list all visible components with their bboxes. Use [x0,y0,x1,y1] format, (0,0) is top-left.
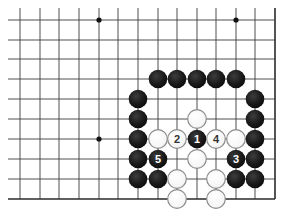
black-stone-move-1[interactable]: 1 [188,130,207,149]
black-stone[interactable] [149,170,168,189]
go-board[interactable]: 21453 [0,0,282,217]
black-stone[interactable] [227,70,246,89]
black-stone-icon [129,110,148,129]
black-stone-icon [246,150,265,169]
black-stone-icon [227,70,246,89]
black-stone[interactable] [129,170,148,189]
black-stone-icon [129,170,148,189]
black-stone-icon [246,110,265,129]
move-number-label: 1 [194,133,200,145]
white-stone-icon [227,130,246,149]
black-stone-icon [129,130,148,149]
move-number-label: 4 [213,133,220,145]
black-stone-icon [246,90,265,109]
white-stone[interactable] [168,190,187,209]
black-stone[interactable] [149,70,168,89]
move-number-label: 3 [233,153,239,165]
black-stone[interactable] [129,110,148,129]
white-stone[interactable] [227,130,246,149]
black-stone[interactable] [246,110,265,129]
black-stone[interactable] [246,90,265,109]
black-stone-icon [246,170,265,189]
star-point-icon [96,17,101,22]
star-point-icon [233,17,238,22]
white-stone-icon [188,110,207,129]
black-stone[interactable] [188,70,207,89]
black-stone-icon [227,170,246,189]
white-stone[interactable] [207,170,226,189]
white-stone-icon [188,150,207,169]
black-stone[interactable] [227,170,246,189]
black-stone-move-3[interactable]: 3 [227,150,246,169]
white-stone[interactable] [188,110,207,129]
black-stone-move-5[interactable]: 5 [149,150,168,169]
white-stone-icon [149,130,168,149]
star-point-icon [96,136,101,141]
black-stone-icon [188,70,207,89]
black-stone[interactable] [246,130,265,149]
black-stone[interactable] [207,70,226,89]
black-stone-icon [246,130,265,149]
white-stone[interactable] [168,170,187,189]
move-number-label: 5 [155,153,161,165]
black-stone-icon [129,90,148,109]
white-stone[interactable] [188,150,207,169]
black-stone[interactable] [246,150,265,169]
move-number-label: 2 [174,133,180,145]
white-stone-icon [207,170,226,189]
black-stone[interactable] [246,170,265,189]
stones-layer: 21453 [129,70,265,209]
black-stone-icon [207,70,226,89]
white-stone-move-2[interactable]: 2 [168,130,187,149]
white-stone-icon [207,190,226,209]
white-stone[interactable] [149,130,168,149]
black-stone[interactable] [129,90,148,109]
white-stone-icon [168,170,187,189]
black-stone[interactable] [168,70,187,89]
white-stone-icon [168,190,187,209]
white-stone[interactable] [207,190,226,209]
black-stone[interactable] [129,150,148,169]
black-stone-icon [149,170,168,189]
black-stone[interactable] [129,130,148,149]
black-stone-icon [149,70,168,89]
black-stone-icon [168,70,187,89]
white-stone-move-4[interactable]: 4 [207,130,226,149]
black-stone-icon [129,150,148,169]
